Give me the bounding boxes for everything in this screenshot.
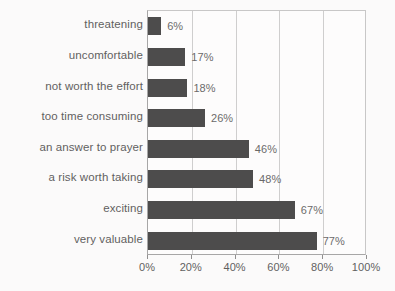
bar-value-label: 46%: [255, 143, 277, 155]
bar-row: 6%: [148, 17, 367, 35]
category-label: very valuable: [2, 233, 143, 245]
plot-area: 6%17%18%26%46%48%67%77%: [147, 10, 366, 255]
category-label: uncomfortable: [2, 49, 143, 61]
category-label: not worth the effort: [2, 80, 143, 92]
bar-row: 48%: [148, 170, 367, 188]
bar-value-label: 17%: [191, 51, 213, 63]
x-tick-label: 100%: [352, 261, 381, 273]
bars-layer: 6%17%18%26%46%48%67%77%: [148, 11, 365, 254]
x-tick-label: 20%: [180, 261, 202, 273]
x-tick-label: 80%: [311, 261, 333, 273]
bar-row: 17%: [148, 48, 367, 66]
bar-value-label: 48%: [259, 173, 281, 185]
bar: [148, 201, 295, 219]
bar: [148, 79, 187, 97]
category-label: a risk worth taking: [2, 171, 143, 183]
category-label: an answer to prayer: [2, 141, 143, 153]
bar: [148, 17, 161, 35]
bar-value-label: 77%: [323, 235, 345, 247]
bar-row: 77%: [148, 232, 367, 250]
x-tick-mark: [322, 255, 323, 259]
x-tick-mark: [278, 255, 279, 259]
x-tick-label: 0%: [139, 261, 155, 273]
bar-row: 18%: [148, 79, 367, 97]
bar: [148, 140, 249, 158]
bar: [148, 109, 205, 127]
category-axis-labels: threateninguncomfortablenot worth the ef…: [0, 10, 143, 255]
bar: [148, 170, 253, 188]
x-tick-label: 60%: [267, 261, 289, 273]
bar-value-label: 67%: [301, 204, 323, 216]
x-tick-mark: [147, 255, 148, 259]
bar-chart: threateninguncomfortablenot worth the ef…: [0, 0, 395, 291]
category-label: threatening: [2, 18, 143, 30]
x-tick-mark: [366, 255, 367, 259]
category-label: exciting: [2, 202, 143, 214]
bar-value-label: 6%: [167, 20, 183, 32]
bar: [148, 48, 185, 66]
x-tick-label: 40%: [223, 261, 245, 273]
x-axis: 0%20%40%60%80%100%: [147, 255, 366, 285]
bar: [148, 232, 317, 250]
bar-value-label: 18%: [193, 82, 215, 94]
bar-value-label: 26%: [211, 112, 233, 124]
category-label: too time consuming: [2, 110, 143, 122]
x-tick-mark: [191, 255, 192, 259]
bar-row: 46%: [148, 140, 367, 158]
bar-row: 67%: [148, 201, 367, 219]
bar-row: 26%: [148, 109, 367, 127]
x-tick-mark: [235, 255, 236, 259]
